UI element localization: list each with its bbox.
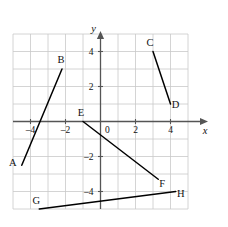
point-label-d: D	[172, 99, 180, 110]
segment-cd	[153, 52, 171, 105]
y-tick-label: 2	[89, 82, 94, 92]
point-label-f: F	[159, 178, 165, 189]
point-label-g: G	[32, 195, 40, 206]
x-tick-label: –2	[60, 125, 71, 135]
point-label-a: A	[9, 157, 17, 168]
y-axis-title: y	[90, 23, 96, 34]
point-label-e: E	[78, 107, 84, 118]
point-label-b: B	[57, 54, 64, 65]
segment-ab	[22, 69, 62, 165]
point-label-c: C	[146, 37, 153, 48]
plot-svg: –4–22442–2–40 ABCDEFGH xy	[0, 0, 228, 227]
y-tick-label: –2	[83, 152, 94, 162]
axis-lines	[13, 31, 208, 209]
coordinate-plane-figure: –4–22442–2–40 ABCDEFGH xy	[0, 0, 228, 227]
x-tick-label: 4	[168, 125, 173, 135]
x-tick-label: 2	[133, 125, 138, 135]
x-axis-title: x	[202, 125, 208, 136]
y-tick-label: 4	[89, 47, 94, 57]
origin-label: 0	[105, 125, 110, 135]
y-tick-label: –4	[83, 187, 94, 197]
segment-ef	[83, 122, 158, 180]
segment-gh	[39, 192, 176, 210]
x-tick-label: –4	[25, 125, 36, 135]
point-label-h: H	[177, 188, 185, 199]
y-axis-arrow-icon	[97, 31, 104, 39]
